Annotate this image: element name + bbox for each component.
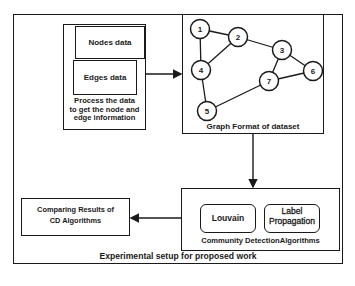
graph-node-7: 7 bbox=[260, 72, 279, 91]
graph-node-5: 5 bbox=[198, 102, 217, 121]
graph-node-2: 2 bbox=[229, 28, 248, 47]
graph-node-6: 6 bbox=[304, 62, 323, 81]
svg-text:2: 2 bbox=[236, 33, 241, 42]
graph-nodes: 1234567 bbox=[191, 20, 323, 121]
svg-text:3: 3 bbox=[280, 46, 285, 55]
graph-node-4: 4 bbox=[192, 61, 211, 80]
graph-node-3: 3 bbox=[273, 41, 292, 60]
svg-text:4: 4 bbox=[199, 66, 204, 75]
graph-edge-7-5 bbox=[207, 81, 269, 111]
graph-node-1: 1 bbox=[191, 20, 210, 39]
svg-text:5: 5 bbox=[205, 107, 210, 116]
svg-text:1: 1 bbox=[198, 25, 203, 34]
graph-and-arrows: 1234567 bbox=[0, 0, 355, 286]
svg-text:7: 7 bbox=[267, 77, 272, 86]
svg-text:6: 6 bbox=[311, 67, 316, 76]
graph-edges bbox=[200, 29, 313, 111]
